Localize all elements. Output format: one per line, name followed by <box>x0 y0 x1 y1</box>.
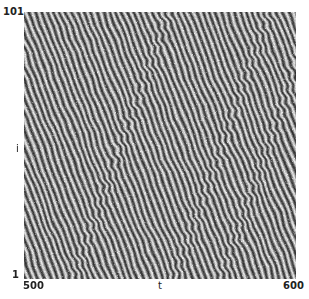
x-tick-min: 500 <box>23 281 44 291</box>
y-tick-min: 1 <box>12 270 19 280</box>
spacetime-heatmap <box>24 12 296 279</box>
x-axis-label: t <box>158 281 162 291</box>
y-tick-max: 101 <box>3 7 24 17</box>
heatmap-plot-area <box>24 12 296 279</box>
x-tick-max: 600 <box>283 281 304 291</box>
y-axis-label: i <box>16 144 19 154</box>
